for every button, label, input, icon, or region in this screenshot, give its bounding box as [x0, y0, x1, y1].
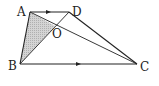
diagonal-ac [30, 12, 137, 64]
label-c: C [140, 60, 149, 74]
label-b: B [8, 59, 17, 73]
label-o: O [52, 27, 62, 41]
parallel-arrow-bc [76, 62, 81, 66]
trapezoid-diagram: A D O B C [0, 0, 159, 86]
parallel-arrow-ad [46, 10, 51, 14]
label-a: A [16, 5, 26, 19]
segment-dc [69, 12, 137, 64]
label-d: D [72, 5, 82, 19]
